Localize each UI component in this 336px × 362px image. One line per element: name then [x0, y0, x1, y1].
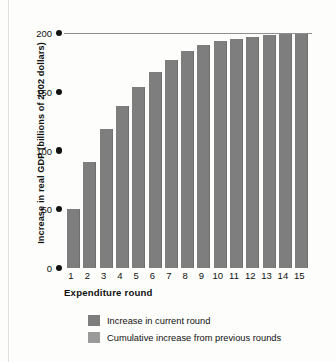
bar [83, 162, 96, 268]
y-tick-0: 0 [0, 268, 64, 269]
x-tick-label-15: 15 [291, 270, 307, 281]
y-tick-dot [56, 89, 62, 95]
y-tick-dot [56, 30, 62, 36]
bar [197, 45, 210, 268]
y-tick-50: 50 [0, 209, 64, 210]
x-axis-title: Expenditure round [64, 287, 153, 298]
bar [67, 209, 80, 268]
legend-label: Increase in current round [107, 316, 210, 326]
y-tick-dot [56, 206, 62, 212]
x-tick-label-14: 14 [275, 270, 291, 281]
bar [279, 34, 292, 268]
y-tick-150: 150 [0, 92, 64, 93]
bar [214, 41, 227, 268]
y-tick-label: 150 [36, 87, 52, 98]
x-tick-label-12: 12 [242, 270, 258, 281]
bar [295, 34, 308, 268]
legend-swatch [88, 332, 100, 343]
legend-item: Cumulative increase from previous rounds [88, 330, 318, 345]
y-tick-dot [56, 147, 62, 153]
y-tick-100: 100 [0, 151, 64, 152]
bar [230, 39, 243, 268]
chart-figure: Increase in real GDP (billions of 2002 d… [0, 0, 336, 362]
y-tick-label: 100 [36, 146, 52, 157]
x-tick-label-11: 11 [226, 270, 242, 281]
y-tick-200: 200 [0, 33, 64, 34]
bar [181, 51, 194, 268]
x-tick-label-6: 6 [145, 270, 161, 281]
y-axis-ticks: 050100150200 [0, 0, 64, 362]
legend-item: Increase in current round [88, 313, 318, 328]
x-tick-label-8: 8 [177, 270, 193, 281]
x-tick-label-10: 10 [210, 270, 226, 281]
bar [100, 129, 113, 268]
y-tick-label: 0 [47, 263, 52, 274]
chart-legend: Increase in current roundCumulative incr… [88, 313, 318, 347]
x-tick-label-13: 13 [259, 270, 275, 281]
y-tick-label: 50 [41, 204, 52, 215]
bar [132, 87, 145, 268]
plot-area [64, 33, 312, 268]
x-tick-label-4: 4 [112, 270, 128, 281]
x-tick-label-7: 7 [161, 270, 177, 281]
x-tick-label-3: 3 [96, 270, 112, 281]
x-tick-label-9: 9 [193, 270, 209, 281]
bar [246, 37, 259, 268]
bar [149, 72, 162, 268]
bar [116, 106, 129, 268]
x-axis-tick-labels: 123456789101112131415 [64, 270, 312, 284]
x-tick-label-5: 5 [128, 270, 144, 281]
bar [165, 60, 178, 268]
x-tick-label-2: 2 [79, 270, 95, 281]
bar [263, 35, 276, 268]
legend-swatch [88, 315, 100, 326]
bar-series [64, 33, 312, 268]
x-tick-label-1: 1 [63, 270, 79, 281]
legend-label: Cumulative increase from previous rounds [107, 333, 281, 343]
y-tick-label: 200 [36, 28, 52, 39]
